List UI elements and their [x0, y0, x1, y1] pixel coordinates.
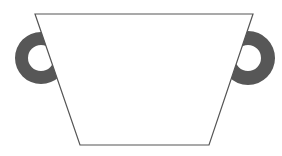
- cup-diagram: [0, 0, 282, 156]
- cup-body: [35, 14, 253, 145]
